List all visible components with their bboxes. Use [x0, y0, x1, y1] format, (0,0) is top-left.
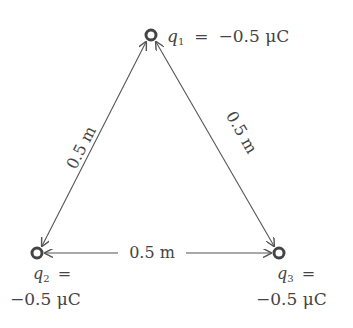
distance-label-q2-q3: 0.5 m — [129, 243, 175, 262]
charge-q1 — [146, 30, 156, 40]
q2-label-symbol: q2= — [33, 264, 71, 284]
distance-arrow-q1-q2 — [42, 42, 146, 246]
q3-label-symbol: q3= — [277, 264, 315, 284]
q3-label-value: −0.5 μC — [256, 289, 327, 309]
q2-label-value: −0.5 μC — [10, 289, 81, 309]
q1-label: q1=−0.5 μC — [167, 26, 289, 47]
charge-q3 — [274, 248, 284, 258]
distance-label-q1-q3: 0.5 m — [222, 108, 261, 157]
triangle-charge-diagram: q1=−0.5 μC q2= −0.5 μC q3= −0.5 μC 0.5 m… — [0, 0, 353, 328]
distance-label-q1-q2: 0.5 m — [62, 123, 100, 172]
charge-q2 — [32, 248, 42, 258]
